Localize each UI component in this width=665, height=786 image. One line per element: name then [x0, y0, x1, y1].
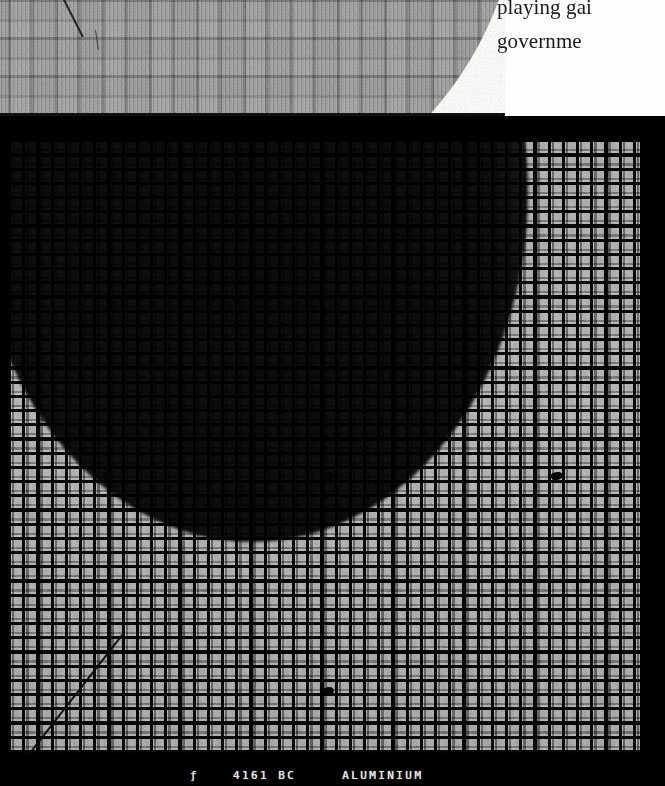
caption-material: ALUMINIUM [342, 769, 423, 782]
body-text-line-1: playing gai [497, 0, 665, 24]
wafer-frame [8, 142, 640, 753]
body-text-line-2: governme [497, 24, 665, 58]
magnified-die-detail-photo [0, 0, 505, 116]
caption-symbol: ƒ [190, 769, 199, 782]
wafer-die-map-photo: ƒ 4161 BC ALUMINIUM [0, 116, 665, 786]
photo-grain-overlay [0, 0, 505, 116]
photo-caption: ƒ 4161 BC ALUMINIUM [0, 764, 665, 786]
body-text-column: playing gai governme [497, 0, 665, 58]
caption-number: 4161 BC [233, 769, 296, 782]
